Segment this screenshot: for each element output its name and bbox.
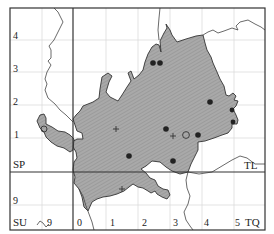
shaded-region-west (37, 114, 74, 152)
x-label-0: 0 (77, 218, 82, 228)
square-su: SU (13, 217, 27, 228)
square-sp: SP (13, 159, 25, 170)
y-label-9: 9 (13, 196, 18, 206)
distribution-map (0, 0, 274, 234)
x-label-4: 4 (204, 218, 209, 228)
record-dot (163, 126, 169, 132)
record-dot (170, 158, 176, 164)
record-dot (230, 108, 235, 113)
x-label-5: 5 (235, 218, 240, 228)
square-tq: TQ (245, 217, 260, 228)
square-tl: TL (244, 160, 257, 171)
y-label-2: 2 (13, 97, 18, 107)
x-label-2: 2 (142, 218, 147, 228)
y-label-1: 1 (14, 130, 19, 140)
record-dot (195, 132, 201, 138)
x-label-1: 1 (110, 218, 115, 228)
record-dot (207, 99, 213, 105)
x-label-9: 9 (47, 218, 52, 228)
y-label-4: 4 (13, 31, 18, 41)
record-dot (231, 120, 236, 125)
record-dot (150, 60, 156, 66)
y-label-3: 3 (13, 64, 18, 74)
record-dot (126, 153, 132, 159)
record-dot (157, 60, 163, 66)
x-label-3: 3 (173, 218, 178, 228)
shaded-region (72, 24, 238, 211)
